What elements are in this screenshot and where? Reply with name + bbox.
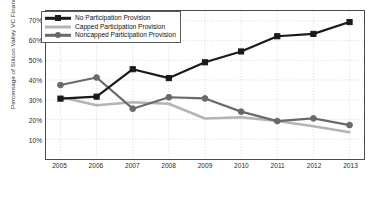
y-tick-label: 30% (29, 97, 42, 104)
legend-item[interactable]: No Participation Provision (45, 14, 176, 23)
y-tick-label: 40% (29, 77, 42, 84)
series-line (60, 97, 349, 132)
x-tick-label: 2005 (52, 162, 67, 169)
x-tick-label: 2011 (271, 162, 285, 169)
legend-item[interactable]: Capped Participation Provision (45, 23, 176, 32)
data-point-marker (166, 94, 172, 100)
data-point-marker (202, 60, 207, 65)
legend-item[interactable]: Noncapped Participation Provision (45, 31, 176, 40)
data-point-marker (58, 96, 63, 101)
data-point-marker (94, 94, 99, 99)
x-axis-ticks: 200520062007200820092010201120122013 (45, 162, 365, 178)
data-point-marker (94, 75, 100, 81)
legend-label: Noncapped Participation Provision (75, 31, 176, 40)
data-point-marker (347, 122, 353, 128)
y-tick-label: 10% (29, 137, 42, 144)
x-tick-label: 2007 (125, 162, 140, 169)
x-tick-label: 2006 (89, 162, 104, 169)
data-point-marker (275, 34, 280, 39)
x-tick-label: 2010 (234, 162, 249, 169)
legend-swatch-icon (45, 14, 71, 22)
data-point-marker (311, 115, 317, 121)
y-tick-label: 20% (29, 117, 42, 124)
legend-swatch-icon (45, 23, 71, 31)
data-point-marker (238, 109, 244, 115)
data-point-marker (130, 106, 136, 112)
legend-label: No Participation Provision (75, 14, 151, 23)
data-point-marker (130, 67, 135, 72)
data-point-marker (58, 82, 64, 88)
data-point-marker (202, 96, 208, 102)
y-tick-label: 50% (29, 57, 42, 64)
line-chart: Percentage of Silicon Valley VC Financin… (0, 0, 391, 197)
x-tick-label: 2008 (161, 162, 176, 169)
legend-swatch-icon (45, 31, 71, 39)
x-tick-label: 2012 (307, 162, 322, 169)
data-point-marker (239, 49, 244, 54)
legend-label: Capped Participation Provision (75, 23, 165, 32)
data-point-marker (274, 118, 280, 124)
chart-legend: No Participation ProvisionCapped Partici… (41, 11, 181, 43)
x-tick-label: 2009 (198, 162, 213, 169)
y-axis-ticks: 10%20%30%40%50%60%70% (0, 10, 42, 160)
data-point-marker (166, 76, 171, 81)
x-tick-label: 2013 (343, 162, 358, 169)
data-point-marker (311, 31, 316, 36)
data-point-marker (347, 19, 352, 24)
